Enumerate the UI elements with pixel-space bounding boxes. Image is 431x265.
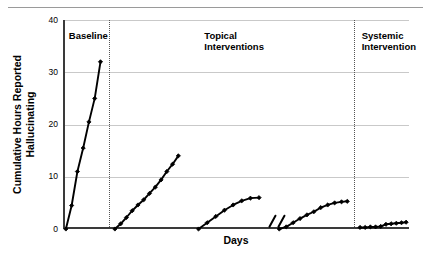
series-systemic-intervention bbox=[358, 220, 408, 229]
x-axis-title: Days bbox=[63, 234, 409, 246]
series-marker bbox=[248, 196, 252, 200]
series-marker bbox=[404, 220, 408, 224]
phase-label-line2: Intervention bbox=[362, 41, 416, 53]
series-topical-intervention-1 bbox=[113, 154, 181, 231]
series-marker bbox=[399, 221, 403, 225]
y-tick-label-20: 20 bbox=[34, 119, 58, 129]
series-marker bbox=[81, 146, 85, 150]
series-baseline bbox=[64, 60, 103, 231]
top-rule-divider bbox=[8, 7, 423, 8]
series-marker bbox=[75, 169, 79, 173]
break-slash-mark bbox=[278, 216, 284, 227]
series-line bbox=[279, 201, 347, 229]
series-marker bbox=[339, 200, 343, 204]
series-marker bbox=[87, 120, 91, 124]
series-topical-intervention-2 bbox=[196, 196, 261, 232]
series-marker bbox=[368, 225, 372, 229]
phase-label-baseline: Baseline bbox=[69, 30, 108, 42]
phase-label-line1: Topical bbox=[204, 30, 237, 41]
series-marker bbox=[93, 96, 97, 100]
y-tick-label-30: 30 bbox=[34, 67, 58, 77]
y-axis-title: Cumulative Hours Reported Hallucinating bbox=[11, 16, 36, 234]
series-marker bbox=[363, 225, 367, 229]
y-tick-label-40: 40 bbox=[34, 15, 58, 25]
figure-container: Cumulative Hours Reported Hallucinating … bbox=[0, 0, 431, 265]
series-marker bbox=[333, 201, 337, 205]
series-marker bbox=[373, 225, 377, 229]
series-topical-intervention-3 bbox=[277, 199, 349, 231]
y-tick-label-0: 0 bbox=[34, 224, 58, 234]
series-marker bbox=[345, 199, 349, 203]
plot-area: BaselineTopicalInterventionsSystemicInte… bbox=[63, 20, 409, 229]
series-marker bbox=[64, 227, 68, 231]
break-slash-mark bbox=[269, 216, 275, 227]
series-marker bbox=[277, 227, 281, 231]
y-tick-label-10: 10 bbox=[34, 171, 58, 181]
phase-label-line1: Baseline bbox=[69, 30, 108, 41]
y-axis-title-line1: Cumulative Hours Reported bbox=[11, 55, 23, 194]
series-marker bbox=[98, 60, 102, 64]
phase-label-line1: Systemic bbox=[362, 30, 404, 41]
phase-label-line2: Interventions bbox=[204, 41, 264, 53]
axis-break-slashes bbox=[269, 216, 284, 227]
series-marker bbox=[394, 221, 398, 225]
phase-label-systemic-intervention: SystemicIntervention bbox=[362, 30, 416, 53]
series-marker bbox=[70, 203, 74, 207]
series-marker bbox=[358, 225, 362, 229]
series-marker bbox=[389, 222, 393, 226]
phase-label-topical-interventions: TopicalInterventions bbox=[204, 30, 264, 53]
series-marker bbox=[257, 196, 261, 200]
